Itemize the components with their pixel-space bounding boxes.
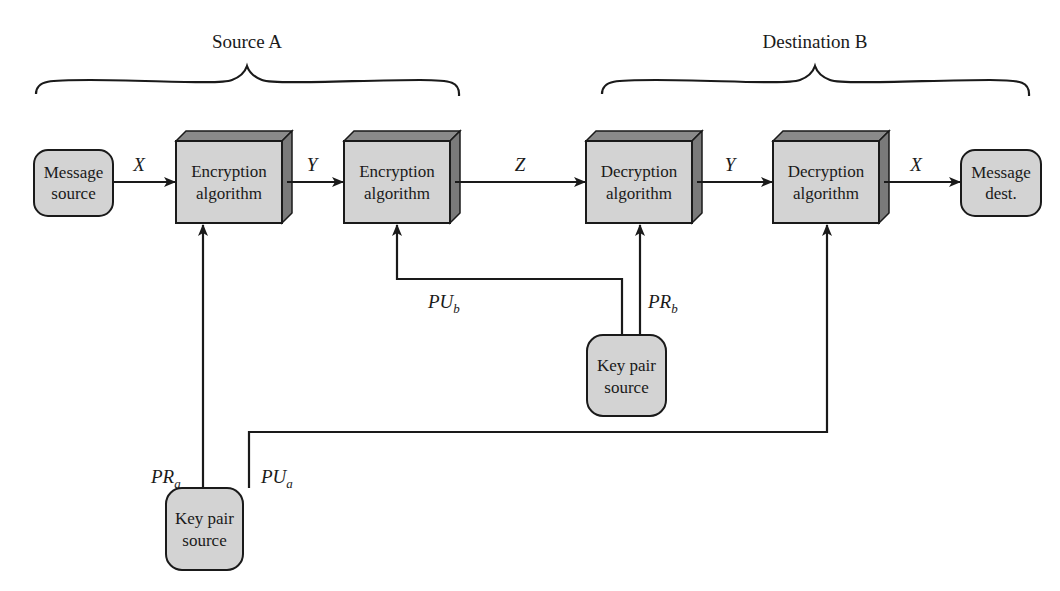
decryption-algorithm-2: Decryption algorithm [773,131,889,223]
encryption-algorithm-1: Encryption algorithm [176,131,292,223]
edge-label-x-out: X [909,154,923,175]
key-label-pr-a: PRa [150,466,181,491]
dec2-label-1: Decryption [788,162,865,181]
message-destination-node: Message dest. [961,150,1041,216]
keypair-b-label-1: Key pair [597,356,656,375]
destination-b-brace [602,66,1029,96]
source-a-header: Source A [212,31,282,52]
dec2-label-2: algorithm [793,184,859,203]
message-source-label-2: source [51,184,95,203]
encryption-algorithm-2: Encryption algorithm [344,131,460,223]
edge-label-y-2: Y [725,154,738,175]
key-label-pu-a: PUa [260,466,293,491]
edge-label-y-1: Y [307,154,320,175]
enc2-label-2: algorithm [364,184,430,203]
message-dest-label-1: Message [971,163,1030,182]
enc1-label-2: algorithm [196,184,262,203]
dec1-label-1: Decryption [601,162,678,181]
message-dest-label-2: dest. [985,184,1017,203]
source-a-brace [36,66,459,96]
dec1-label-2: algorithm [606,184,672,203]
key-label-pu-b: PUb [427,291,460,316]
keypair-b-label-2: source [604,378,648,397]
key-pair-source-a: Key pair source [166,488,243,570]
edge-label-x-in: X [132,154,146,175]
message-source-node: Message source [34,150,113,216]
message-source-label-1: Message [44,163,103,182]
destination-b-header: Destination B [762,31,867,52]
keypair-a-label-1: Key pair [175,509,234,528]
key-line-pu-b [397,225,622,335]
key-label-pr-b: PRb [647,291,678,316]
edge-label-z: Z [515,154,526,175]
decryption-algorithm-1: Decryption algorithm [586,131,702,223]
enc1-label-1: Encryption [191,162,267,181]
key-line-pu-a [249,225,827,488]
keypair-a-label-2: source [182,531,226,550]
key-pair-source-b: Key pair source [587,335,666,416]
enc2-label-1: Encryption [359,162,435,181]
